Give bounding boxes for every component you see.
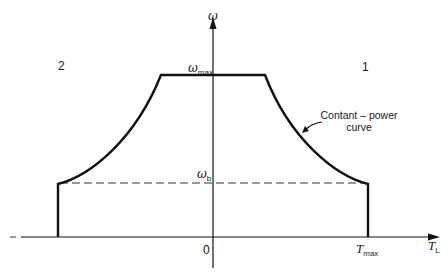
x-axis [10,234,440,241]
omega-max-label: ωmax [188,62,213,77]
y-axis-label: ω [208,10,218,22]
origin-label: 0 [203,244,210,256]
x-axis-label: TL [428,239,440,255]
omega-b-label: ωb [197,168,211,183]
quadrant-2-label: 2 [58,60,65,72]
constant-power-annotation: Contant – power curve [308,109,410,133]
operating-region-diagram [0,0,448,274]
annotation-line-2: curve [308,121,410,133]
t-max-label: Tmax [356,242,378,258]
quadrant-1-label: 1 [362,61,369,73]
y-axis [210,17,217,268]
annotation-line-1: Contant – power [308,109,410,121]
